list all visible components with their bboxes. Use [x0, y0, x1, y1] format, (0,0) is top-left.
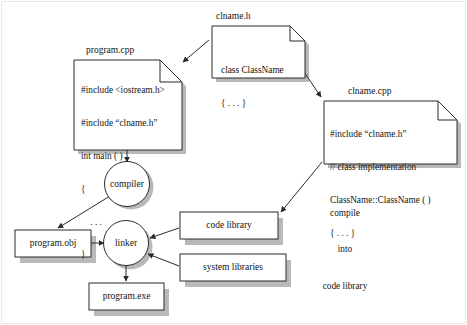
code-line: . . . [81, 217, 165, 228]
label-program-exe: program.exe [89, 291, 164, 302]
code-program-cpp: #include <iostream.h> #include “clname.h… [81, 63, 165, 282]
code-line: } [81, 249, 165, 260]
code-line: #include <iostream.h> [81, 85, 165, 96]
code-line: { . . . } [221, 98, 284, 109]
code-line: int main ( ) [81, 151, 165, 162]
edge-clnameh-to-clnamecpp [304, 72, 321, 97]
label-linker: linker [106, 238, 146, 249]
code-line: // class implementation [330, 162, 431, 173]
diagram-canvas: clname.h class ClassName { . . . } progr… [0, 0, 467, 325]
caption-program-cpp: program.cpp [86, 45, 134, 56]
code-line: #include “clname.h” [81, 118, 165, 129]
caption-clname-h: clname.h [216, 11, 251, 22]
annotation-compile-into-code-library: compile into code library [295, 183, 395, 316]
annotation-line: code library [295, 280, 395, 292]
caption-clname-cpp: clname.cpp [348, 86, 392, 97]
annotation-line: into [295, 243, 395, 255]
code-line: #include “clname.h” [330, 129, 431, 140]
label-compiler: compiler [104, 179, 150, 190]
label-system-libraries: system libraries [180, 262, 286, 273]
label-code-library: code library [180, 220, 278, 231]
code-clname-h: class ClassName { . . . } [221, 43, 284, 131]
annotation-line: compile [295, 207, 395, 219]
label-program-obj: program.obj [15, 238, 91, 249]
code-line: class ClassName [221, 65, 284, 76]
edge-clnameh-to-programcpp [183, 40, 209, 62]
